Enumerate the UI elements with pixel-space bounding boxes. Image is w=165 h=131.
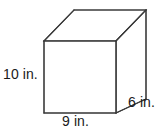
height-dimension-label: 10 in. [3,67,38,81]
prism-figure: 10 in. 9 in. 6 in. [0,0,165,131]
prism-front-face [44,41,116,113]
width-dimension-label: 9 in. [62,114,89,128]
depth-dimension-label: 6 in. [128,95,155,109]
